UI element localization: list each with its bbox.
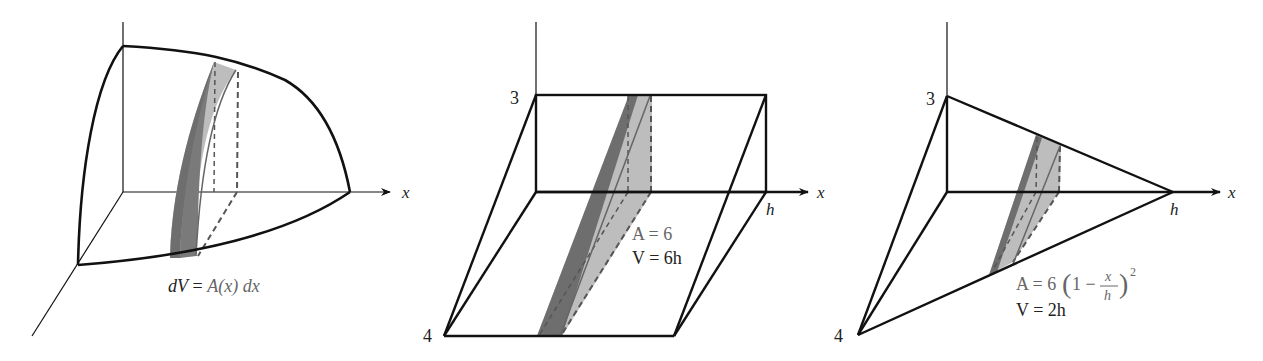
left-curve <box>78 46 123 265</box>
svg-text:h: h <box>1104 288 1111 303</box>
figure-general-solid: x dV = A(x) dx <box>32 22 410 336</box>
height-label: 3 <box>926 89 935 109</box>
cross-section-slice <box>537 95 652 336</box>
svg-text:A = 6: A = 6 <box>1016 274 1056 294</box>
length-label: h <box>1170 200 1179 219</box>
x-axis-label: x <box>816 183 825 202</box>
svg-text:x: x <box>1104 269 1112 284</box>
x-axis-label: x <box>1227 183 1236 202</box>
svg-text:1 −: 1 − <box>1072 274 1096 294</box>
figure-prism: 3 4 h x A = 6 V = 6h <box>423 22 825 346</box>
cross-section-slice <box>170 62 238 258</box>
depth-label: 4 <box>423 326 432 346</box>
volume-element-formula: dV = A(x) dx <box>168 276 260 297</box>
volume-formula: V = 2h <box>1016 300 1066 320</box>
height-label: 3 <box>510 88 519 108</box>
area-formula: A = 6 ( 1 − x h ) 2 <box>1016 265 1136 303</box>
top-curve <box>123 46 350 192</box>
depth-label: 4 <box>834 326 843 346</box>
figure-pyramid: 3 4 h x A = 6 ( 1 − x h ) 2 V = 2h <box>834 22 1236 346</box>
svg-text:(: ( <box>1062 268 1071 299</box>
length-label: h <box>766 200 775 219</box>
svg-text:2: 2 <box>1130 265 1136 279</box>
volume-formula: V = 6h <box>632 248 682 268</box>
x-axis-label: x <box>401 183 410 202</box>
svg-text:): ) <box>1119 268 1128 299</box>
cross-section-slice <box>989 135 1061 275</box>
diagram-canvas: x dV = A(x) dx 3 4 h x A = 6 V = 6h <box>0 0 1263 361</box>
area-formula: A = 6 <box>632 224 672 244</box>
